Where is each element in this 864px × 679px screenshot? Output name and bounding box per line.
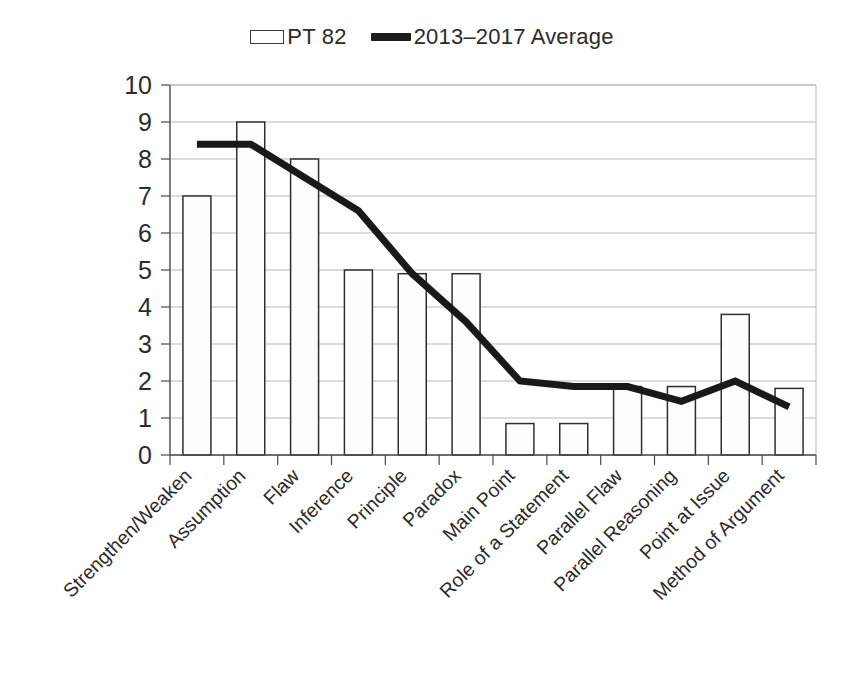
bar [452,274,480,455]
y-tick-label: 10 [124,71,152,99]
y-axis-ticks: 012345678910 [124,71,170,469]
y-tick-label: 5 [138,256,152,284]
bar-series [183,122,803,455]
y-tick-label: 3 [138,330,152,358]
bar [291,159,319,455]
y-tick-label: 1 [138,404,152,432]
bar [398,274,426,455]
y-tick-label: 6 [138,219,152,247]
chart-figure: PT 82 2013–2017 Average 012345678910 Str… [0,0,864,679]
average-line [197,144,789,407]
bar [560,424,588,455]
y-tick-label: 4 [138,293,152,321]
bar [344,270,372,455]
x-axis-ticks [170,455,816,465]
x-tick-label: Principle [343,464,411,532]
x-tick-label: Flaw [259,464,304,509]
x-axis-labels: Strengthen/WeakenAssumptionFlawInference… [59,464,789,604]
y-tick-label: 7 [138,182,152,210]
y-tick-label: 2 [138,367,152,395]
bar [614,387,642,455]
chart-svg: 012345678910 Strengthen/WeakenAssumption… [0,0,864,679]
bar [237,122,265,455]
y-tick-label: 9 [138,108,152,136]
plot-area: 012345678910 Strengthen/WeakenAssumption… [0,0,864,679]
y-tick-label: 8 [138,145,152,173]
bar [183,196,211,455]
y-tick-label: 0 [138,441,152,469]
gridlines [170,85,816,455]
bar [506,424,534,455]
line-series [197,144,789,407]
